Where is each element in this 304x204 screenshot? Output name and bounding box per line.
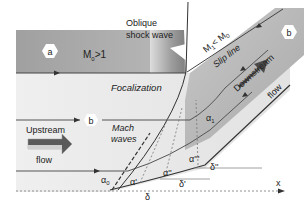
x-axis-arrow <box>278 189 285 194</box>
delta-prime-label: δ' <box>179 179 186 189</box>
region-a-label: a <box>47 47 52 57</box>
alpha-dprime-label: α'' <box>163 168 172 178</box>
upstream-label: Upstream <box>26 125 65 135</box>
oblique-shock-label-line2: shock wave <box>126 30 173 40</box>
mach-waves-label-line1: Mach <box>112 123 134 133</box>
mach-waves-label-line2: waves <box>111 134 137 144</box>
supersonic-compression-diagram: a b b M0>1 Oblique shock wave M1< M0 Sli… <box>0 0 304 204</box>
focalization-label: Focalization <box>111 82 162 93</box>
region-b-label: b <box>286 28 291 38</box>
x-axis-label: x <box>276 178 281 188</box>
oblique-shock-label-line1: Oblique <box>126 18 157 28</box>
streamline-b-label: b <box>88 116 93 126</box>
delta-label: δ <box>145 192 150 202</box>
alpha-prime-label: α' <box>130 177 137 187</box>
upstream-flow-label: flow <box>36 155 53 165</box>
alpha-tprime-label: α''' <box>189 154 200 164</box>
delta-dprime-label: δ'' <box>210 162 219 172</box>
